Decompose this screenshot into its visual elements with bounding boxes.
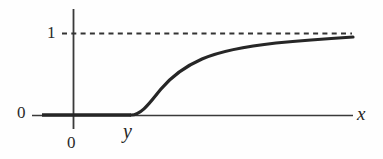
y-tick-label-zero: 0 — [17, 104, 26, 121]
x-axis-label: x — [357, 104, 365, 123]
origin-label-zero: 0 — [67, 134, 76, 151]
threshold-label-y: y — [123, 121, 132, 141]
plot-canvas — [0, 0, 383, 159]
figure-container: 1 0 0 y x — [0, 0, 383, 159]
y-tick-label-one: 1 — [47, 24, 56, 41]
curve-rising-segment — [131, 37, 353, 115]
